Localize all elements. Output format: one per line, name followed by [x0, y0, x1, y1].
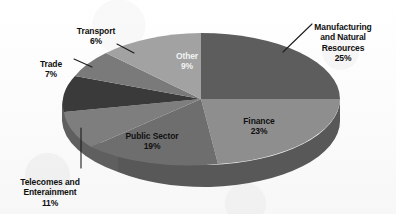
slice-label-public-sector: Public Sector 19%	[110, 120, 194, 162]
slice-percent-text: 6%	[62, 36, 130, 47]
slice-percent-text: 7%	[28, 69, 74, 80]
slice-percent-text: 23%	[228, 126, 290, 137]
slice-percent-text: 9%	[160, 61, 214, 72]
slice-label-text: Other	[176, 51, 198, 61]
slice-label-other: Other 9%	[160, 40, 214, 82]
slice-percent-text: 25%	[296, 53, 390, 64]
slice-label-text: Finance	[243, 116, 274, 126]
slice-label-text: Trade	[40, 59, 62, 69]
slice-label-manufacturing-and-natural-resources: Manufacturing and Natural Resources 25%	[296, 11, 390, 74]
slice-label-text: Transport	[77, 26, 115, 36]
slice-label-finance: Finance 23%	[228, 105, 290, 147]
slice-label-text: Public Sector	[125, 131, 178, 141]
slice-label-telecomes-and-enterainment: Telecomes and Enterainment 11%	[2, 166, 98, 214]
pie-chart-screenshot: Manufacturing and Natural Resources 25% …	[0, 0, 396, 214]
slice-label-transport: Transport 6%	[62, 15, 130, 57]
slice-label-text: Telecomes and Enterainment	[20, 177, 79, 198]
slice-percent-text: 11%	[2, 198, 98, 209]
slice-label-text: Manufacturing and Natural Resources	[314, 22, 371, 53]
slice-percent-text: 19%	[110, 141, 194, 152]
